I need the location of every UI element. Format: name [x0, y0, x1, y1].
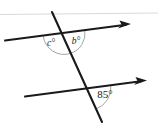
angle-label-c: c°: [47, 38, 55, 48]
angle-label-b: b°: [72, 36, 81, 46]
diagram-canvas: c° b° 85°: [0, 0, 160, 133]
upper-parallel-line: [5, 25, 126, 41]
lower-parallel-line: [25, 81, 141, 96]
geometry-diagram: c° b° 85°: [0, 0, 160, 133]
page-rule-line: [0, 13, 158, 15]
angle-label-85: 85°: [97, 88, 112, 100]
